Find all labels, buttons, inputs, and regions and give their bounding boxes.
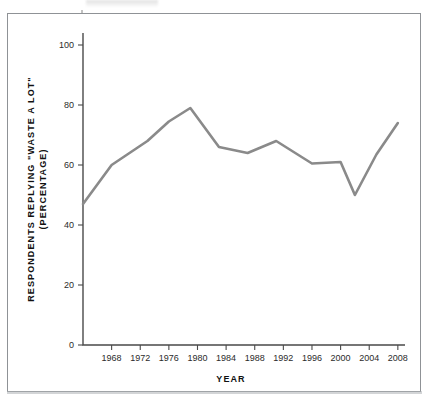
y-tick-label: 60 (64, 160, 74, 170)
chart-plot-area: 020406080100 196819721976198019841988199… (0, 0, 431, 404)
x-tick-label: 1992 (273, 353, 293, 363)
y-tick-label: 40 (64, 220, 74, 230)
y-axis-tick-marks (78, 45, 83, 345)
x-tick-label: 1980 (187, 353, 207, 363)
x-tick-label: 1976 (159, 353, 179, 363)
y-axis-title-line-2: (PERCENTAGE) (38, 148, 48, 229)
x-axis-title: YEAR (216, 374, 245, 384)
x-tick-label: 1996 (302, 353, 322, 363)
y-tick-label: 0 (69, 340, 74, 350)
x-tick-label: 1988 (245, 353, 265, 363)
x-tick-label: 2004 (359, 353, 379, 363)
y-tick-label: 20 (64, 280, 74, 290)
x-tick-label: 1984 (216, 353, 236, 363)
y-axis-tick-labels: 020406080100 (59, 40, 74, 350)
x-axis-tick-marks (112, 345, 398, 350)
y-axis-title-line-1: RESPONDENTS REPLYING "WASTE A LOT" (26, 76, 36, 301)
x-axis-tick-labels: 1968197219761980198419881992199620002004… (102, 353, 408, 363)
x-tick-label: 1968 (102, 353, 122, 363)
x-tick-label: 2000 (331, 353, 351, 363)
x-tick-label: 2008 (388, 353, 408, 363)
line-chart: 020406080100 196819721976198019841988199… (0, 0, 431, 404)
y-tick-label: 80 (64, 100, 74, 110)
data-series-line (83, 108, 398, 204)
y-tick-label: 100 (59, 40, 74, 50)
x-tick-label: 1972 (130, 353, 150, 363)
